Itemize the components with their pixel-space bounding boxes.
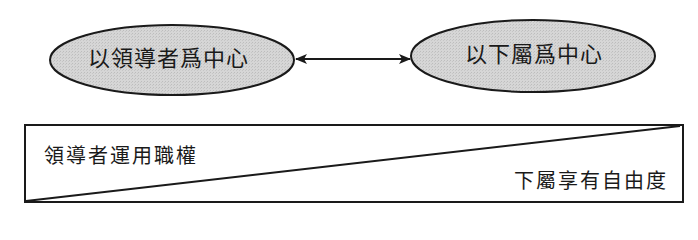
subordinate-centered-label: 以下屬爲中心 [465, 44, 603, 66]
leader-authority-label: 領導者運用職權 [44, 146, 198, 166]
subordinate-freedom-label: 下屬享有自由度 [514, 171, 668, 191]
leader-centered-label: 以領導者爲中心 [88, 48, 249, 70]
